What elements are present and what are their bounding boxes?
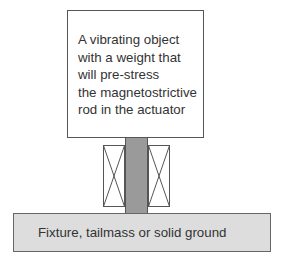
- vibrating-object-box: A vibrating object with a weight that wi…: [67, 10, 204, 138]
- fixture-base-label: Fixture, tailmass or solid ground: [38, 225, 226, 240]
- left-coil-icon: [103, 145, 125, 207]
- fixture-base: Fixture, tailmass or solid ground: [13, 213, 271, 252]
- vibrating-object-label: A vibrating object with a weight that wi…: [78, 31, 197, 119]
- right-coil-icon: [148, 145, 170, 207]
- magnetostrictive-rod: [125, 138, 148, 213]
